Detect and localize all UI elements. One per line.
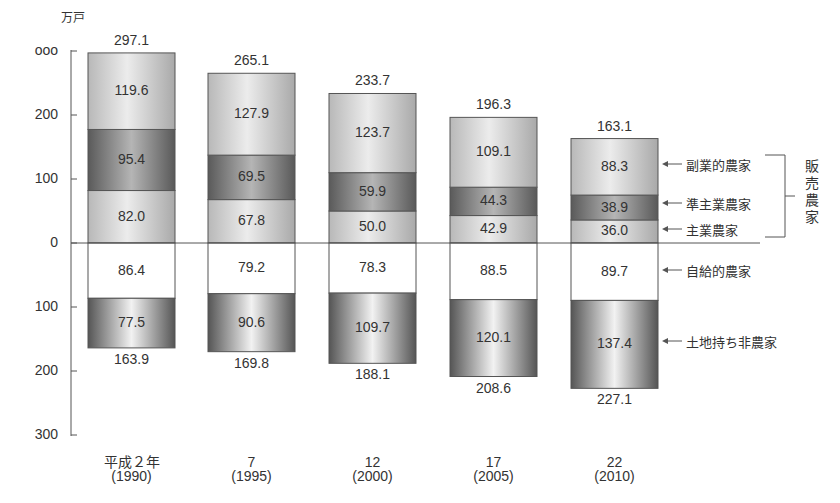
- total-above-label: 233.7: [355, 73, 390, 88]
- legend-arrow-icon: [662, 267, 668, 273]
- segment-value-label: 78.3: [359, 260, 386, 275]
- legend-arrow-icon: [662, 200, 668, 206]
- legend-item: 自給的農家: [686, 261, 751, 280]
- segment-value-label: 88.5: [480, 263, 507, 278]
- chart-canvas: [0, 0, 840, 503]
- legend-item: 副業的農家: [686, 155, 751, 174]
- segment-value-label: 86.4: [118, 263, 145, 278]
- x-axis-year-label: (1995): [231, 469, 271, 484]
- segment-value-label: 67.8: [238, 213, 265, 228]
- segment-value-label: 44.3: [480, 193, 507, 208]
- y-tick-label: 200: [18, 362, 58, 378]
- legend-item: 主業農家: [686, 220, 738, 239]
- y-tick-label: 0: [18, 234, 58, 250]
- y-tick-label: 300: [18, 426, 58, 442]
- legend-arrow-icon: [662, 226, 668, 232]
- total-below-label: 169.8: [234, 356, 269, 371]
- segment-value-label: 127.9: [234, 106, 269, 121]
- total-above-label: 163.1: [597, 119, 632, 134]
- legend-arrow-icon: [662, 161, 668, 167]
- axes-group: [71, 50, 795, 436]
- segment-value-label: 120.1: [476, 330, 511, 345]
- legend-item: 準主業農家: [686, 194, 751, 213]
- segment-value-label: 77.5: [118, 315, 145, 330]
- x-axis-year-label: (2010): [594, 469, 634, 484]
- segment-value-label: 82.0: [118, 209, 145, 224]
- y-tick-label: 100: [18, 170, 58, 186]
- total-below-label: 188.1: [355, 367, 390, 382]
- segment-value-label: 109.7: [355, 320, 390, 335]
- legend-arrow-icon: [662, 338, 668, 344]
- segment-value-label: 137.4: [597, 336, 632, 351]
- total-below-label: 208.6: [476, 381, 511, 396]
- y-tick-label: 100: [18, 298, 58, 314]
- total-above-label: 196.3: [476, 97, 511, 112]
- segment-value-label: 119.6: [115, 83, 149, 98]
- segment-value-label: 38.9: [601, 200, 628, 215]
- segment-value-label: 59.9: [359, 184, 386, 199]
- segment-value-label: 69.5: [238, 169, 265, 184]
- segment-value-label: 50.0: [359, 219, 386, 234]
- segment-value-label: 42.9: [480, 221, 507, 236]
- group-label-text: 販売農家: [805, 158, 819, 225]
- y-axis-unit: 万戸: [61, 8, 85, 25]
- total-below-label: 163.9: [114, 352, 149, 367]
- segment-value-label: 88.3: [601, 159, 628, 174]
- x-axis-year-label: (2000): [352, 469, 392, 484]
- y-tick-label: ooo: [18, 42, 58, 58]
- segment-value-label: 95.4: [118, 152, 145, 167]
- y-tick-label: 200: [18, 106, 58, 122]
- segment-value-label: 90.6: [238, 315, 265, 330]
- total-below-label: 227.1: [597, 392, 632, 407]
- x-axis-year-label: (2005): [473, 469, 513, 484]
- segment-value-label: 89.7: [601, 264, 628, 279]
- total-above-label: 297.1: [114, 33, 149, 48]
- group-label-hanbai: 販売農家: [804, 158, 820, 226]
- segment-value-label: 79.2: [238, 260, 265, 275]
- segment-value-label: 109.1: [476, 144, 511, 159]
- stacked-bar-chart: 万戸 ooo2001000100200300 82.095.4119.6297.…: [0, 0, 840, 503]
- segment-value-label: 123.7: [355, 125, 390, 140]
- total-above-label: 265.1: [234, 53, 269, 68]
- legend-item: 土地持ち非農家: [686, 332, 777, 351]
- x-axis-year-label: (1990): [111, 469, 151, 484]
- segment-value-label: 36.0: [601, 223, 628, 238]
